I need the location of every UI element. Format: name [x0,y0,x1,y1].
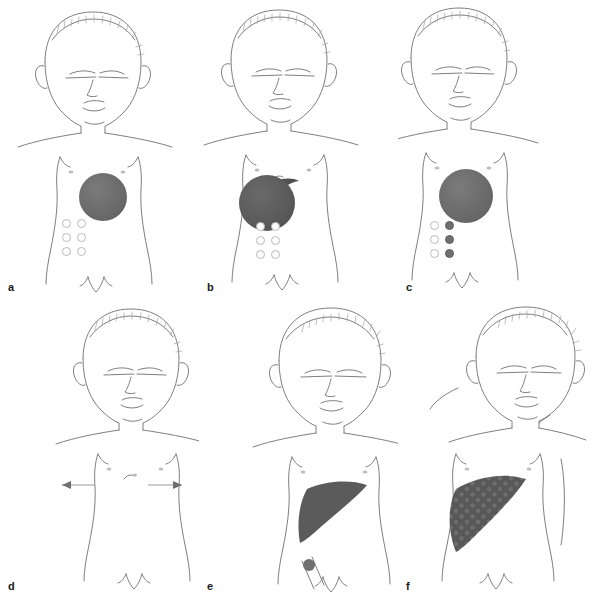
panel-e-illustration [199,299,398,598]
panel-f-illustration [398,299,597,598]
liver-involvement-f [450,476,526,552]
panel-a: a [0,0,199,299]
panel-label-a: a [8,281,14,293]
primary-tumor-a [79,173,127,221]
panel-label-d: d [8,580,15,592]
panel-e: e [199,299,398,598]
bone-marrow-grid-b [256,222,290,262]
figure-panel-grid: a [0,0,597,598]
liver-involvement-e [298,482,367,543]
bone-lesion-e [303,559,315,571]
panel-b-illustration [199,0,398,299]
panel-a-illustration [0,0,199,299]
panel-label-b: b [207,281,214,293]
panel-label-f: f [406,580,410,592]
primary-tumor-c [439,169,493,223]
panel-f: f [398,299,597,598]
arrow-right-d [148,481,182,489]
bone-marrow-grid-c [430,221,464,261]
panel-b: b [199,0,398,299]
panel-label-e: e [207,580,213,592]
panel-label-c: c [406,281,412,293]
panel-d-illustration [0,299,199,598]
bone-marrow-grid-a [62,219,96,259]
panel-c: c [398,0,597,299]
arrow-left-d [62,481,95,489]
panel-c-illustration [398,0,597,299]
panel-d: or or or d [0,299,199,598]
